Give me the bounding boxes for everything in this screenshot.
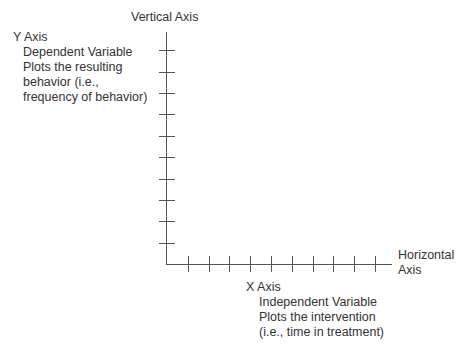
horizontal-axis-title-line-2: Axis — [398, 263, 422, 278]
vertical-axis-title: Vertical Axis — [131, 10, 198, 25]
y-axis-desc-line-3: behavior (i.e., — [23, 75, 99, 90]
y-axis-heading: Y Axis — [13, 30, 48, 45]
x-axis-heading: X Axis — [246, 280, 281, 295]
y-axis-desc-line-2: Plots the resulting — [23, 60, 122, 75]
y-axis-desc-line-4: frequency of behavior) — [23, 90, 147, 105]
horizontal-axis-title-line-1: Horizontal — [398, 248, 454, 263]
x-axis-desc-line-1: Independent Variable — [259, 295, 377, 310]
x-axis-desc-line-3: (i.e., time in treatment) — [259, 325, 384, 340]
y-axis-desc-line-1: Dependent Variable — [23, 45, 133, 60]
x-axis-desc-line-2: Plots the intervention — [259, 310, 376, 325]
